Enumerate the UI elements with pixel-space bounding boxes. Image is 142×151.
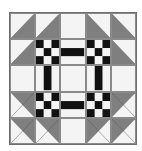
quilt-cell-hst-bl — [86, 13, 111, 39]
quilt-cell-plain — [60, 65, 85, 91]
quilt-cell-ninepatch — [86, 92, 111, 118]
quilt-cell-ninepatch — [35, 92, 60, 118]
quilt-cell-plain — [60, 13, 85, 39]
quilt-cell-plain — [10, 65, 35, 91]
quilt-cell-hst-br — [10, 13, 35, 39]
quilt-cell-hst-tr — [10, 92, 35, 118]
quilt-block — [9, 12, 137, 145]
quilt-cell-bar-v — [86, 65, 111, 91]
quilt-cell-plain — [111, 65, 136, 91]
quilt-cell-hst-tl — [111, 92, 136, 118]
quilt-cell-bar-v — [35, 65, 60, 91]
quilt-cell-hst-tl — [86, 118, 111, 144]
quilt-cell-hst-br — [10, 39, 35, 65]
quilt-cell-ninepatch — [86, 39, 111, 65]
quilt-cell-plain — [60, 118, 85, 144]
quilt-cell-hst-tl — [111, 118, 136, 144]
quilt-cell-hst-bl — [111, 39, 136, 65]
quilt-cell-hst-bl — [111, 13, 136, 39]
quilt-cell-ninepatch — [35, 39, 60, 65]
quilt-cell-hst-tr — [10, 118, 35, 144]
quilt-cell-bar-h — [60, 39, 85, 65]
quilt-cell-bar-h — [60, 92, 85, 118]
quilt-cell-hst-tr — [35, 118, 60, 144]
quilt-cell-hst-br — [35, 13, 60, 39]
